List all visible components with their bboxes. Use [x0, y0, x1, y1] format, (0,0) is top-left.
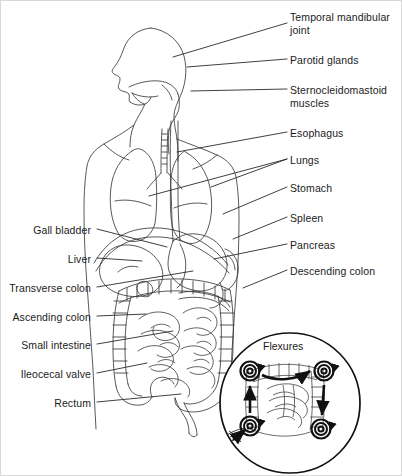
- label-ascending-colon: Ascending colon: [1, 311, 91, 324]
- label-gall-bladder: Gall bladder: [1, 224, 91, 237]
- label-pancreas: Pancreas: [290, 239, 335, 252]
- label-ileocecal-valve: Ileocecal valve: [1, 368, 91, 381]
- label-transverse-colon: Transverse colon: [1, 282, 91, 295]
- label-stomach: Stomach: [290, 182, 332, 195]
- label-parotid-glands: Parotid glands: [290, 54, 359, 67]
- label-liver: Liver: [1, 253, 91, 266]
- anatomy-figure: Temporal mandibular joint Parotid glands…: [0, 0, 402, 476]
- label-rectum: Rectum: [1, 397, 91, 410]
- label-small-intestine: Small intestine: [1, 339, 91, 352]
- label-temporal-mandibular-joint: Temporal mandibular joint: [290, 11, 390, 36]
- label-lungs: Lungs: [290, 154, 319, 167]
- label-spleen: Spleen: [290, 212, 323, 225]
- label-sternocleidomastoid-muscles: Sternocleidomastoid muscles: [290, 84, 387, 109]
- label-esophagus: Esophagus: [290, 127, 343, 140]
- inset-title-flexures: Flexures: [263, 340, 303, 352]
- flexures-inset: [220, 333, 360, 473]
- label-descending-colon: Descending colon: [290, 265, 375, 278]
